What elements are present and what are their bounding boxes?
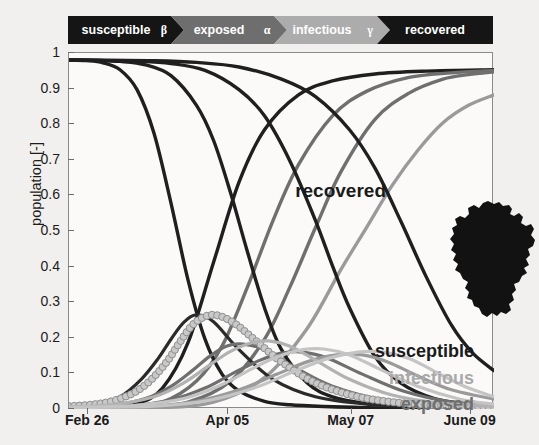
y-tick-mark: [68, 301, 74, 302]
y-tick-mark: [68, 52, 74, 53]
x-tick-mark: [227, 408, 228, 414]
flow-label-susceptible: susceptible: [82, 23, 151, 37]
annotation-infectious: infectious: [389, 368, 474, 389]
y-tick-label: 0: [14, 400, 60, 416]
y-tick-mark: [68, 159, 74, 160]
flow-label-recovered: recovered: [405, 23, 465, 37]
annotation-recovered: recovered: [295, 180, 386, 202]
plot-area: recovered susceptible infectious exposed: [68, 52, 493, 408]
y-tick-mark: [68, 372, 74, 373]
germany-map-icon: [441, 199, 539, 331]
y-tick-label: 0.2: [14, 329, 60, 345]
annotation-susceptible: susceptible: [375, 341, 474, 362]
y-tick-label: 0.3: [14, 293, 60, 309]
x-tick-label: Feb 26: [65, 412, 109, 428]
flow-label-exposed: exposed: [194, 23, 245, 37]
y-tick-label: 0.9: [14, 80, 60, 96]
y-axis-label: population [-]: [28, 104, 44, 264]
series-line-susceptible-4: [69, 60, 494, 371]
flow-banner-svg: susceptibleβexposedαinfectiousγrecovered: [68, 16, 493, 44]
y-tick-mark: [68, 266, 74, 267]
flow-label-infectious: infectious: [292, 23, 351, 37]
y-tick-mark: [68, 337, 74, 338]
x-tick-mark: [87, 408, 88, 414]
x-tick-mark: [351, 408, 352, 414]
flow-param-infectious: γ: [366, 23, 373, 37]
y-tick-mark: [68, 88, 74, 89]
x-tick-label: May 07: [327, 412, 374, 428]
y-tick-label: 0.1: [14, 364, 60, 380]
y-tick-label: 1: [14, 44, 60, 60]
compartment-flow-banner: susceptibleβexposedαinfectiousγrecovered: [68, 16, 493, 44]
flow-param-susceptible: β: [161, 23, 167, 37]
y-tick-mark: [68, 408, 74, 409]
y-tick-mark: [68, 123, 74, 124]
x-tick-label: June 09: [444, 412, 496, 428]
y-tick-mark: [68, 230, 74, 231]
y-tick-mark: [68, 194, 74, 195]
flow-param-exposed: α: [264, 23, 271, 37]
x-tick-mark: [470, 408, 471, 414]
x-tick-label: Apr 05: [206, 412, 250, 428]
